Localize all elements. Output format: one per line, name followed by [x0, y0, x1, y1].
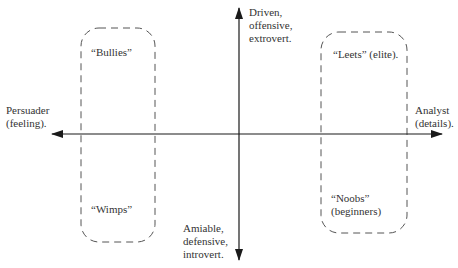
axis-label-right: Analyst (details).: [415, 104, 454, 130]
group-label-leets: “Leets” (elite).: [333, 48, 398, 61]
group-label-wimps: “Wimps”: [91, 203, 132, 216]
group-label-bullies: “Bullies”: [91, 46, 132, 59]
quadrant-diagram: [0, 0, 458, 268]
axis-label-top: Driven, offensive, extrovert.: [249, 6, 292, 45]
axis-label-bottom: Amiable, defensive, introvert.: [183, 222, 228, 261]
axis-label-left: Persuader (feeling).: [6, 104, 49, 130]
group-label-noobs: “Noobs” (beginners): [331, 192, 381, 218]
